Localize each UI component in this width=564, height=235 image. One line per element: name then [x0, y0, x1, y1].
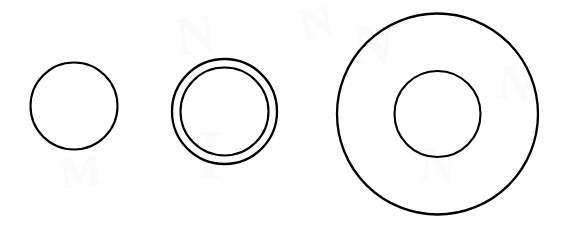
circle-group-single-circle	[31, 63, 118, 150]
outer-circle	[31, 63, 118, 150]
circle-group-double-ring-circle	[172, 59, 277, 164]
inner-circle	[181, 68, 269, 156]
diagram-canvas: NNNINMN	[0, 0, 564, 235]
outer-circle	[337, 14, 538, 215]
concentric-circles-figure	[0, 0, 564, 235]
outer-circle	[172, 59, 277, 164]
inner-circle	[395, 71, 481, 157]
circle-group-annulus-circle	[337, 14, 538, 215]
